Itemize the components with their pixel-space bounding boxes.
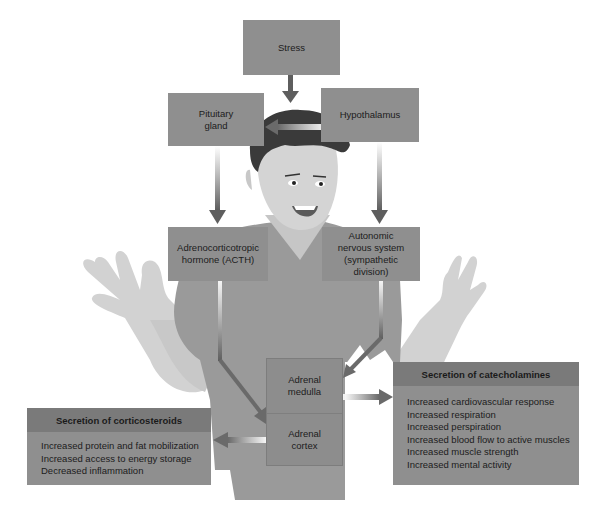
list-item: Increased access to energy storage	[41, 453, 211, 466]
list-item: Increased muscle strength	[407, 446, 579, 459]
node-hypothalamus: Hypothalamus	[321, 88, 419, 142]
node-adrenal-medulla-line-1: Adrenal	[288, 374, 321, 386]
node-autonomic-line-3: (sympathetic division)	[326, 254, 416, 278]
node-acth-line-1: Adrenocorticotropic	[177, 242, 259, 254]
node-pituitary-line-2: gland	[204, 120, 227, 132]
node-adrenal-cortex: Adrenal cortex	[267, 413, 342, 467]
node-stress: Stress	[243, 20, 340, 75]
arrow-hypothalamus-to-autonomic	[371, 142, 388, 224]
node-adrenal-cortex-line-1: Adrenal	[288, 428, 321, 440]
panel-catecholamines-title: Secretion of catecholamines	[393, 362, 579, 386]
node-acth-line-2: hormone (ACTH)	[182, 254, 254, 266]
ear	[246, 170, 252, 190]
panel-corticosteroids-title: Secretion of corticosteroids	[27, 408, 211, 432]
list-item: Increased blood flow to active muscles	[407, 434, 579, 447]
list-item: Increased protein and fat mobilization	[41, 440, 211, 453]
panel-catecholamines-list: Increased cardiovascular response Increa…	[393, 386, 579, 471]
node-autonomic-nervous-system: Autonomic nervous system (sympathetic di…	[322, 227, 420, 281]
arrow-pituitary-to-acth	[209, 146, 226, 224]
node-adrenal-medulla-line-2: medulla	[288, 386, 321, 398]
stress-response-diagram: Stress Pituitary gland Hypothalamus Adre…	[0, 0, 607, 510]
node-autonomic-line-1: Autonomic	[349, 230, 394, 242]
arrow-stress-down	[282, 75, 299, 103]
node-acth: Adrenocorticotropic hormone (ACTH)	[168, 227, 268, 281]
node-hypothalamus-label: Hypothalamus	[340, 109, 401, 121]
list-item: Increased perspiration	[407, 421, 579, 434]
node-autonomic-line-2: nervous system	[338, 242, 405, 254]
list-item: Increased cardiovascular response	[407, 396, 579, 409]
list-item: Increased respiration	[407, 409, 579, 422]
node-pituitary-gland: Pituitary gland	[168, 93, 264, 146]
panel-corticosteroids: Secretion of corticosteroids Increased p…	[27, 408, 211, 485]
node-adrenal-gland: Adrenal medulla Adrenal cortex	[266, 358, 343, 466]
panel-catecholamines: Secretion of catecholamines Increased ca…	[393, 362, 579, 485]
node-stress-label: Stress	[278, 42, 305, 54]
node-adrenal-cortex-line-2: cortex	[292, 440, 318, 452]
list-item: Decreased inflammation	[41, 465, 211, 478]
node-pituitary-line-1: Pituitary	[199, 108, 233, 120]
panel-corticosteroids-list: Increased protein and fat mobilization I…	[27, 432, 211, 478]
list-item: Increased mental activity	[407, 459, 579, 472]
node-adrenal-medulla: Adrenal medulla	[267, 359, 342, 414]
